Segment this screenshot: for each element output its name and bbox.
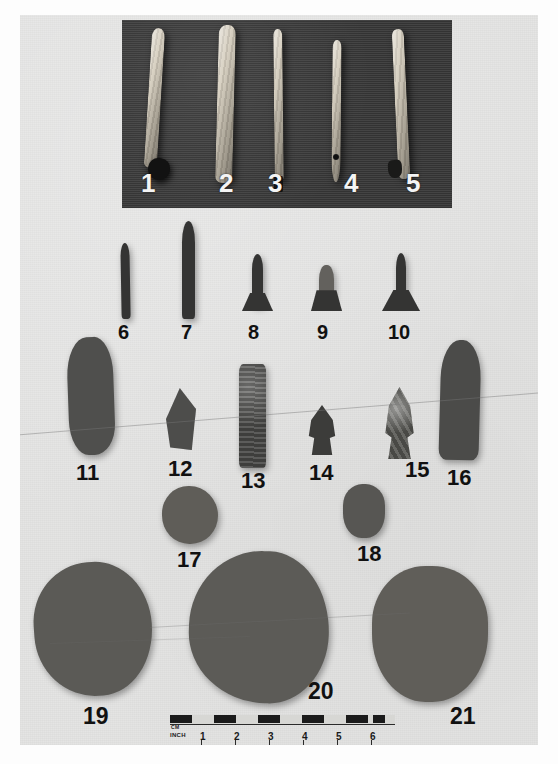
artifact-8-label: 8 bbox=[248, 322, 259, 342]
artifact-1 bbox=[144, 28, 166, 169]
artifact-18 bbox=[343, 484, 385, 538]
artifact-9-base bbox=[311, 289, 342, 311]
cm-block bbox=[170, 715, 192, 723]
artifact-4-label: 4 bbox=[344, 170, 358, 196]
artifact-14-label: 14 bbox=[309, 462, 333, 484]
cm-block bbox=[346, 715, 368, 723]
artifact-16-label: 16 bbox=[447, 467, 471, 489]
artifact-14 bbox=[307, 405, 337, 455]
artifact-19 bbox=[29, 558, 156, 700]
inch-major-tick bbox=[303, 740, 304, 745]
artifact-17 bbox=[162, 486, 218, 544]
artifact-6 bbox=[120, 243, 130, 319]
artifact-19-label: 19 bbox=[83, 705, 109, 728]
artifact-18-label: 18 bbox=[357, 543, 381, 565]
artifact-7-label: 7 bbox=[181, 322, 192, 342]
artifact-5-label: 5 bbox=[406, 170, 420, 196]
artifact-20-label: 20 bbox=[308, 680, 334, 703]
scale-bar: CM INCH 1 2 3 4 5 6 bbox=[170, 715, 395, 745]
artifact-21 bbox=[372, 566, 488, 702]
artifact-8-base bbox=[242, 293, 273, 311]
artifact-15 bbox=[383, 387, 416, 459]
artifact-11-label: 11 bbox=[76, 462, 99, 484]
scale-inch-label: INCH bbox=[170, 732, 186, 738]
artifact-2-label: 2 bbox=[219, 170, 233, 196]
inch-major-tick bbox=[235, 740, 236, 745]
artifact-10-label: 10 bbox=[388, 322, 410, 342]
artifact-3-label: 3 bbox=[268, 170, 282, 196]
artifact-6-label: 6 bbox=[118, 322, 129, 342]
cm-block bbox=[302, 715, 324, 723]
artifact-5 bbox=[392, 29, 411, 179]
artifact-4 bbox=[331, 40, 341, 182]
artifact-21-label: 21 bbox=[450, 705, 476, 728]
artifact-7 bbox=[182, 221, 195, 319]
inch-major-tick bbox=[337, 740, 338, 745]
artifact-5-base bbox=[388, 160, 403, 179]
cm-block bbox=[258, 715, 280, 723]
plate-photograph: 1 2 3 4 5 6 7 8 bbox=[20, 15, 538, 745]
cm-block bbox=[214, 715, 236, 723]
cm-block bbox=[373, 715, 385, 723]
artifact-11 bbox=[66, 336, 116, 456]
scale-cm-label: CM bbox=[171, 724, 180, 730]
inch-major-tick bbox=[269, 740, 270, 745]
artifact-2 bbox=[215, 25, 236, 183]
inch-major-tick bbox=[201, 740, 202, 745]
artifact-9-label: 9 bbox=[317, 322, 328, 342]
artifact-15-label: 15 bbox=[405, 459, 429, 481]
artifact-12 bbox=[166, 388, 196, 450]
artifact-4-perforation-icon bbox=[333, 154, 339, 160]
artifact-13-label: 13 bbox=[241, 470, 265, 492]
artifact-10-base bbox=[382, 290, 420, 311]
bone-tool-panel: 1 2 3 4 5 bbox=[122, 20, 452, 208]
artifact-17-label: 17 bbox=[177, 549, 201, 571]
inch-major-tick bbox=[371, 740, 372, 745]
artifact-1-label: 1 bbox=[141, 170, 155, 196]
artifact-12-label: 12 bbox=[168, 458, 192, 480]
artifact-3 bbox=[273, 29, 284, 181]
artifact-plate: 1 2 3 4 5 6 7 8 bbox=[0, 0, 558, 764]
